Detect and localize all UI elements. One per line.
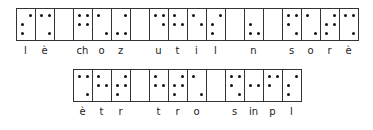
braille-cell-label: r [168, 106, 187, 118]
braille-dot-icon [154, 75, 157, 78]
braille-dot-icon [257, 84, 260, 87]
braille-dot-icon [40, 14, 43, 17]
braille-dot-icon [268, 75, 271, 78]
braille-cell [188, 70, 207, 101]
braille-dot-icon [200, 93, 203, 96]
braille-dot-icon [257, 32, 260, 35]
braille-cell [283, 70, 302, 101]
braille-dot-icon [181, 75, 184, 78]
braille-cell [112, 70, 131, 101]
braille-row-2 [73, 69, 302, 102]
braille-dot-icon [124, 14, 127, 17]
braille-cell-label [130, 45, 149, 57]
braille-dot-icon [124, 84, 127, 87]
braille-cell-label: r [320, 45, 339, 57]
braille-cell-label: o [92, 45, 111, 57]
braille-cell-label: l [206, 45, 225, 57]
braille-cell [169, 70, 188, 101]
braille-cell [36, 9, 55, 40]
braille-dot-icon [238, 75, 241, 78]
braille-dot-icon [21, 32, 24, 35]
braille-dot-icon [219, 14, 222, 17]
braille-dot-icon [192, 75, 195, 78]
braille-dot-icon [249, 23, 252, 26]
braille-dot-icon [86, 75, 89, 78]
braille-cell-label [54, 45, 73, 57]
braille-dot-icon [162, 23, 165, 26]
braille-row-1-labels: lèchozutilnsorè [16, 45, 358, 57]
braille-dot-icon [325, 32, 328, 35]
braille-cell-label: o [301, 45, 320, 57]
braille-dot-icon [29, 14, 32, 17]
braille-dot-icon [333, 23, 336, 26]
braille-dot-icon [295, 14, 298, 17]
braille-dot-icon [162, 14, 165, 17]
braille-dot-icon [173, 84, 176, 87]
braille-row-1 [16, 8, 359, 41]
braille-cell-label: è [73, 106, 92, 118]
braille-dot-icon [230, 75, 233, 78]
braille-cell [264, 9, 283, 40]
braille-dot-icon [230, 84, 233, 87]
braille-cell [17, 9, 36, 40]
braille-cell [150, 9, 169, 40]
braille-dot-icon [86, 14, 89, 17]
braille-cell-label [206, 106, 225, 118]
braille-cell-label: l [16, 45, 35, 57]
braille-dot-icon [181, 23, 184, 26]
braille-dot-icon [86, 23, 89, 26]
braille-dot-icon [154, 84, 157, 87]
braille-cell-label: t [149, 106, 168, 118]
braille-cell [207, 70, 226, 101]
braille-dot-icon [21, 23, 24, 26]
braille-cell [131, 70, 150, 101]
braille-cell-label [225, 45, 244, 57]
braille-dot-icon [78, 23, 81, 26]
braille-cell [93, 9, 112, 40]
braille-cell-label [263, 45, 282, 57]
braille-dot-icon [181, 84, 184, 87]
braille-cell [93, 70, 112, 101]
braille-dot-icon [306, 14, 309, 17]
braille-dot-icon [48, 32, 51, 35]
braille-dot-icon [352, 14, 355, 17]
braille-dot-icon [97, 75, 100, 78]
braille-cell [245, 70, 264, 101]
braille-cell [131, 9, 150, 40]
braille-dot-icon [173, 14, 176, 17]
braille-dot-icon [97, 84, 100, 87]
braille-cell-label: u [149, 45, 168, 57]
braille-dot-icon [238, 93, 241, 96]
braille-dot-icon [287, 14, 290, 17]
braille-dot-icon [116, 32, 119, 35]
braille-cell [74, 70, 93, 101]
braille-dot-icon [211, 32, 214, 35]
braille-cell [226, 70, 245, 101]
braille-cell-label: o [187, 106, 206, 118]
braille-cell [283, 9, 302, 40]
braille-dot-icon [86, 93, 89, 96]
braille-cell [302, 9, 321, 40]
braille-cell [207, 9, 226, 40]
braille-dot-icon [192, 14, 195, 17]
braille-cell-label: s [282, 45, 301, 57]
braille-cell [112, 9, 131, 40]
braille-cell-label: ch [73, 45, 92, 57]
braille-dot-icon [173, 93, 176, 96]
braille-dot-icon [124, 75, 127, 78]
braille-cell [188, 9, 207, 40]
braille-dot-icon [97, 14, 100, 17]
braille-row-2-labels: ètrtrosinpl [73, 106, 301, 118]
braille-dot-icon [154, 14, 157, 17]
braille-dot-icon [48, 14, 51, 17]
braille-cell [150, 70, 169, 101]
braille-dot-icon [105, 84, 108, 87]
braille-dot-icon [78, 14, 81, 17]
braille-cell-label: r [111, 106, 130, 118]
braille-dot-icon [276, 75, 279, 78]
braille-cell [74, 9, 93, 40]
braille-cell [245, 9, 264, 40]
braille-cell [226, 9, 245, 40]
braille-cell-label: è [339, 45, 358, 57]
braille-dot-icon [78, 75, 81, 78]
